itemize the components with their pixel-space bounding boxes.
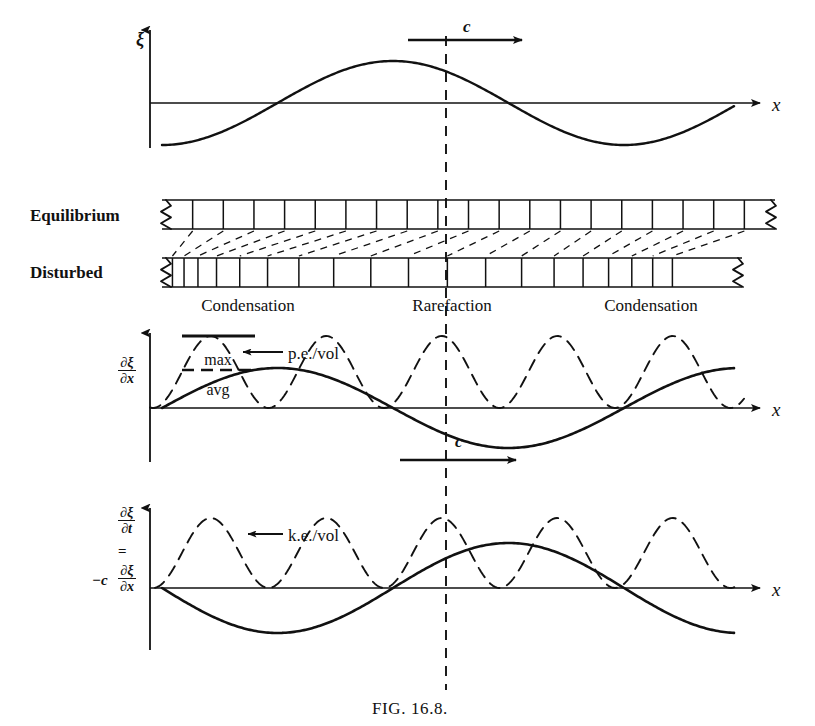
legend-avg-label: avg xyxy=(206,382,229,398)
velocity-y-axis-label: ∂ξ ∂t xyxy=(118,505,135,536)
particle-correspondence-line xyxy=(522,231,561,256)
velocity-x-axis-label: x xyxy=(772,580,780,599)
disturbed-bar-right-torn-edge xyxy=(733,258,743,287)
particle-correspondence-line xyxy=(653,231,714,256)
particle-correspondence-line xyxy=(334,231,408,256)
velocity-y-label-denominator: ∂t xyxy=(118,520,135,536)
velocity-equals-sign: = xyxy=(118,543,127,560)
figure-16-8: ξ x c Equilibrium Disturbed Condensation… xyxy=(0,0,815,726)
disturbed-row-label: Disturbed xyxy=(30,264,103,281)
particle-correspondence-line xyxy=(371,231,438,256)
particle-correspondence-line xyxy=(486,231,530,256)
particle-correspondence-line xyxy=(632,231,683,256)
kinetic-energy-density-curve xyxy=(155,518,739,588)
strain-x-axis-label: x xyxy=(772,400,780,419)
strain-y-label-denominator: ∂x xyxy=(118,370,136,386)
wave-speed-label-strain: c xyxy=(455,433,463,450)
kinetic-energy-density-label: k.e./vol xyxy=(288,527,339,544)
legend-max-label: max xyxy=(204,352,232,368)
potential-energy-density-label: p.e./vol xyxy=(288,345,339,362)
equilibrium-bar-right-torn-edge xyxy=(766,200,776,229)
displacement-y-axis-label: ξ xyxy=(136,30,144,48)
particle-correspondence-line xyxy=(409,231,469,256)
velocity-y-axis-label-second: ∂ξ ∂x xyxy=(118,563,136,594)
zone-label-condensation-left: Condensation xyxy=(201,297,295,314)
equilibrium-bar-left-torn-edge xyxy=(161,200,171,229)
figure-caption: FIG. 16.8. xyxy=(372,700,448,717)
particle-correspondence-line xyxy=(554,231,591,256)
particle-correspondence-line xyxy=(268,231,346,256)
displacement-panel-graphics xyxy=(150,30,760,148)
velocity-y-label-numerator: ∂ξ xyxy=(118,505,135,520)
wave-speed-label-top: c xyxy=(463,18,471,35)
displacement-x-axis-label: x xyxy=(772,95,780,114)
strain-y-label-numerator: ∂ξ xyxy=(118,355,136,370)
zone-label-condensation-right: Condensation xyxy=(604,297,698,314)
zone-label-rarefaction: Rarefaction xyxy=(412,297,491,314)
minus-c-coefficient: −c xyxy=(92,572,108,589)
velocity-y-label2-denominator: ∂x xyxy=(118,578,136,594)
velocity-y-label2-numerator: ∂ξ xyxy=(118,563,136,578)
velocity-panel-graphics xyxy=(150,508,760,650)
equilibrium-row-label: Equilibrium xyxy=(30,207,120,224)
particle-correspondence-line xyxy=(609,231,653,256)
disturbed-bar-left-torn-edge xyxy=(161,258,171,287)
particle-correspondence-line xyxy=(299,231,377,256)
particle-correspondence-line xyxy=(198,231,254,256)
strain-y-axis-label: ∂ξ ∂x xyxy=(118,355,136,386)
medium-panel-graphics xyxy=(161,200,776,287)
